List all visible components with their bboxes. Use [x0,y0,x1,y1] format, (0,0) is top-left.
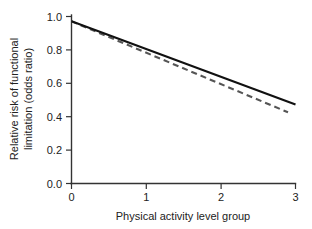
y-tick-label-0.4: 0.4 [47,111,62,123]
figure-container: 1.0 0.8 0.6 0.4 0.2 0.0 0 1 2 3 Physical… [0,0,312,229]
y-tick-label-1.0: 1.0 [47,11,62,23]
x-tick-label-2: 2 [218,191,224,203]
x-tick-label-3: 3 [292,191,298,203]
y-axis-title-line-2: limitation (odds ratio) [22,48,34,150]
y-tick-label-0.6: 0.6 [47,77,62,89]
series-solid-line [72,21,296,104]
y-tick-label-0.0: 0.0 [47,178,62,190]
y-tick-label-0.8: 0.8 [47,44,62,56]
x-axis-title: Physical activity level group [116,210,251,222]
y-axis-title-line-1: Relative risk of functional [8,38,20,160]
x-tick-label-0: 0 [68,191,74,203]
line-chart: 1.0 0.8 0.6 0.4 0.2 0.0 0 1 2 3 Physical… [0,0,312,229]
y-tick-label-0.2: 0.2 [47,144,62,156]
series-dashed-line [72,21,289,112]
x-tick-label-1: 1 [143,191,149,203]
